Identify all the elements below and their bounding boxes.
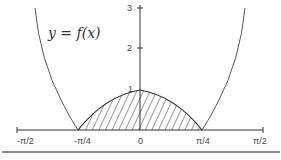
- function-plot: 3 2 1 -π/2 -π/4 0 π/4 π/2 y = f(x): [0, 0, 281, 160]
- x-tick-neg-pi-2: -π/2: [17, 136, 34, 146]
- y-tick-2: 2: [127, 43, 132, 53]
- x-tick-pi-4: π/4: [196, 136, 210, 146]
- y-tick-3: 3: [127, 3, 132, 13]
- x-tick-zero: 0: [138, 136, 143, 146]
- function-label: y = f(x): [47, 25, 101, 41]
- y-tick-1: 1: [128, 84, 133, 94]
- x-tick-pi-2: π/2: [253, 136, 267, 146]
- outer-curve-right: [202, 8, 245, 130]
- x-tick-neg-pi-4: -π/4: [74, 136, 91, 146]
